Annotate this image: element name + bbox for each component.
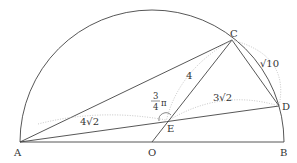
- label-E: E: [167, 123, 174, 134]
- label-B: B: [280, 147, 287, 158]
- label-O: O: [148, 147, 156, 158]
- segment-AD: [20, 106, 279, 142]
- segment-CD: [232, 40, 279, 106]
- label-A: A: [13, 147, 22, 158]
- length-AE: 4√2: [80, 116, 99, 127]
- segment-AC: [20, 40, 232, 142]
- dotted-arc-AE: [38, 115, 166, 124]
- angle-denominator: 4: [153, 102, 158, 112]
- segment-OC: [152, 40, 232, 142]
- length-ED: 3√2: [213, 92, 232, 103]
- semicircle-arc: [20, 10, 284, 142]
- length-CD: √10: [260, 58, 279, 69]
- angle-numerator: 3: [153, 91, 158, 101]
- label-C: C: [230, 28, 238, 39]
- length-CE: 4: [186, 70, 192, 81]
- angle-pi: π: [161, 98, 167, 108]
- geometry-diagram: A O B C D E 4√2 4 3√2 √10 3 4 π: [0, 0, 297, 163]
- label-D: D: [282, 101, 290, 112]
